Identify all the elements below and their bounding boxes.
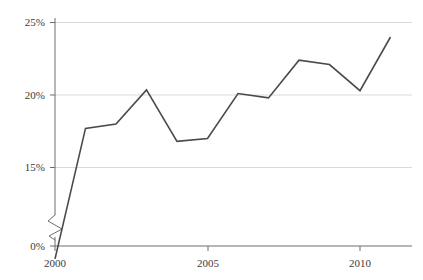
chart-canvas: 25% 20% 15% 0% 2000 2005 2010 <box>0 0 423 280</box>
y-tick-label-20: 20% <box>25 89 45 101</box>
y-tick-label-25: 25% <box>25 16 45 28</box>
line-chart: 25% 20% 15% 0% 2000 2005 2010 <box>0 0 423 280</box>
y-tick-label-15: 15% <box>25 161 45 173</box>
x-tick-label-2005: 2005 <box>197 257 220 269</box>
x-tick-label-2010: 2010 <box>349 257 372 269</box>
y-tick-label-0: 0% <box>30 240 45 252</box>
chart-background <box>0 0 423 280</box>
